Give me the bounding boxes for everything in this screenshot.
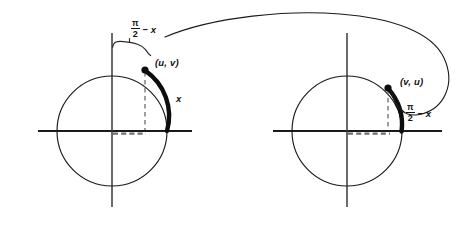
right-point-marker: [384, 84, 391, 91]
left-brace: [113, 41, 151, 55]
trigonometry-unit-circle-figure: π 2 − x (u, v) x (v, u) π 2 − x: [0, 0, 472, 233]
left-brace-fraction: π 2: [131, 19, 140, 39]
left-highlight-arc: [145, 71, 169, 131]
right-arc-numerator: π: [406, 103, 415, 112]
left-brace-denominator: 2: [132, 29, 139, 39]
right-point-label: (v, u): [400, 77, 423, 87]
left-point-label: (u, v): [155, 58, 179, 68]
left-point-marker: [141, 66, 148, 73]
mapping-connector-curve: [165, 13, 449, 115]
left-arc-label: x: [176, 94, 181, 104]
right-arc-label: π 2 − x: [406, 103, 431, 123]
right-arc-denominator: 2: [407, 113, 414, 123]
left-brace-numerator: π: [131, 19, 140, 28]
left-brace-label: π 2 − x: [131, 19, 156, 39]
right-arc-suffix: − x: [418, 108, 431, 119]
right-arc-fraction: π 2: [406, 103, 415, 123]
left-brace-suffix: − x: [143, 24, 156, 35]
right-highlight-arc: [388, 89, 402, 132]
figure-canvas: [0, 0, 472, 233]
